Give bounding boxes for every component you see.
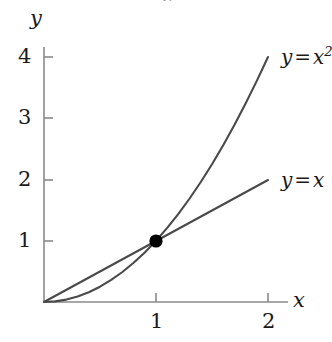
y-tick-label-2: 2 <box>18 169 31 190</box>
y-tick-label-1: 1 <box>18 230 31 251</box>
curve-label-quadratic-var: x <box>313 45 324 69</box>
curve-label-linear-y: y <box>281 168 292 192</box>
x-tick-label-2: 2 <box>262 311 275 332</box>
curve-label-linear-var: x <box>313 168 324 192</box>
curve-label-linear: y=x <box>281 170 324 190</box>
y-tick-label-4: 4 <box>18 46 31 67</box>
chart-figure: y 4 3 2 1 1 2 x y y=x2 y=x <box>0 0 332 342</box>
curve-label-quadratic-exp: 2 <box>324 44 332 59</box>
y-axis-label: y <box>30 8 42 29</box>
y-tick-label-3: 3 <box>18 107 31 128</box>
x-axis-label: x <box>293 290 305 311</box>
curve-label-quadratic-y: y <box>281 45 292 69</box>
curve-label-linear-eq: = <box>292 168 313 192</box>
intersection-point-marker <box>149 234 162 247</box>
curve-label-quadratic-eq: = <box>292 45 313 69</box>
curve-quadratic <box>44 57 268 302</box>
curve-label-quadratic: y=x2 <box>281 47 332 67</box>
x-tick-label-1: 1 <box>150 311 163 332</box>
